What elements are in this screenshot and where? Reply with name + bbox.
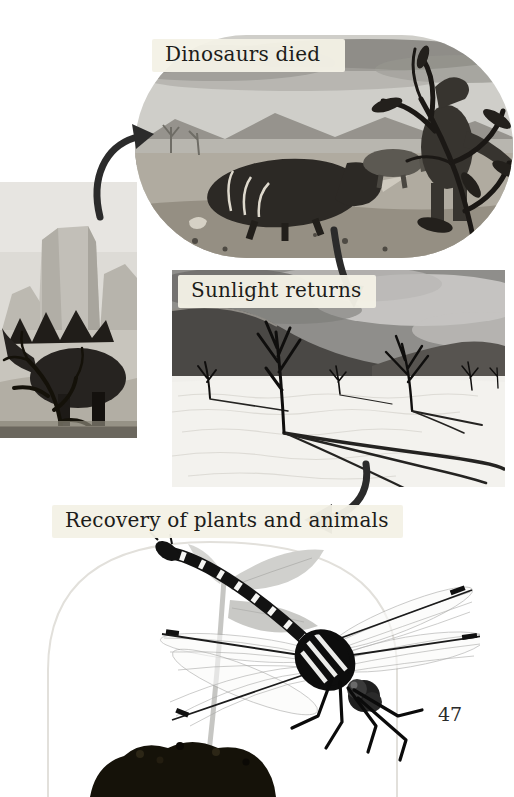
label-dinosaurs-died: Dinosaurs died (152, 39, 345, 72)
label-sunlight-returns: Sunlight returns (178, 275, 376, 308)
page-number: 47 (438, 703, 462, 725)
label-recovery: Recovery of plants and animals (52, 505, 403, 538)
book-page: Dinosaurs died Sunlight returns Recovery… (0, 0, 514, 797)
recovery-image (20, 530, 480, 797)
arrow-into-dinosaurs-died (88, 122, 158, 222)
soil-mound (90, 742, 276, 797)
dragonfly-on-seedling-photo (20, 530, 480, 797)
dragonfly (150, 532, 480, 760)
dragonfly-legs (292, 678, 422, 760)
